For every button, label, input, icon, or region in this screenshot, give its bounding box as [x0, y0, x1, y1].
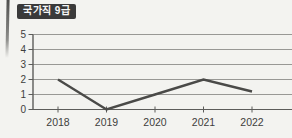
x-axis-tick-label: 2021	[192, 116, 216, 128]
x-axis-tick-label: 2022	[240, 116, 264, 128]
x-axis-tick-label: 2018	[46, 116, 70, 128]
y-axis-tick-label: 1	[20, 89, 26, 100]
y-axis-tick-label: 5	[20, 29, 26, 40]
y-axis-tick-label: 4	[20, 44, 26, 55]
y-axis-tick-label: 2	[20, 74, 26, 85]
x-axis-tick-label: 2019	[95, 116, 119, 128]
exam-question-trend-panel: 국가직 9급 01234520182019202020212022	[0, 0, 292, 138]
line-chart: 01234520182019202020212022	[0, 0, 292, 138]
x-axis-tick-label: 2020	[143, 116, 167, 128]
y-axis-tick-label: 3	[20, 59, 26, 70]
y-axis-tick-label: 0	[20, 104, 26, 115]
